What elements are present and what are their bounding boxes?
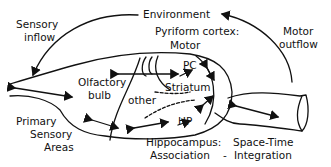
label-olfactory-2: bulb bbox=[88, 89, 111, 101]
label-primary-3: Areas bbox=[44, 141, 74, 153]
label-striatum: Striatum bbox=[165, 81, 210, 93]
label-primary-1: Primary bbox=[16, 115, 57, 127]
label-sensory-inflow-2: inflow bbox=[24, 31, 55, 43]
label-dash: - bbox=[223, 149, 227, 161]
label-environment: Environment bbox=[143, 8, 210, 20]
label-motor-outflow-1: Motor bbox=[283, 25, 313, 37]
label-pc: PC bbox=[183, 59, 197, 71]
label-pyriform-2: Motor bbox=[170, 39, 200, 51]
label-primary-2: Sensory bbox=[30, 128, 72, 140]
label-hippocampus-2: Association bbox=[150, 149, 210, 161]
label-pyriform-1: Pyriform cortex: bbox=[155, 25, 239, 37]
label-sensory-inflow-1: Sensory bbox=[16, 18, 58, 30]
label-spacetime-1: Space-Time bbox=[233, 136, 294, 148]
label-other: other bbox=[128, 94, 156, 106]
label-spacetime-2: Integration bbox=[234, 149, 292, 161]
label-hp: HP bbox=[178, 115, 192, 127]
label-motor-outflow-2: outflow bbox=[279, 38, 318, 50]
brainstem-outline bbox=[215, 93, 308, 131]
label-hippocampus-1: Hippocampus: bbox=[146, 136, 221, 148]
label-olfactory-1: Olfactory bbox=[78, 76, 126, 88]
